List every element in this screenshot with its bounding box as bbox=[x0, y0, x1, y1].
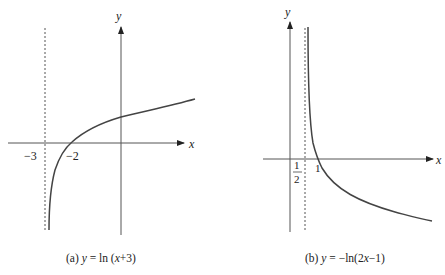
caption-a: (a) y = ln (x+3) bbox=[66, 252, 136, 265]
curve-b bbox=[308, 27, 432, 221]
tick-label-half-num: 1 bbox=[294, 159, 300, 171]
panel-b: 1 2 1 x y (b) y = −ln(2x−1) bbox=[263, 5, 442, 265]
tick-label-neg3: −3 bbox=[24, 149, 37, 163]
y-axis-label-a: y bbox=[115, 9, 122, 23]
x-axis-label-b: x bbox=[435, 153, 442, 167]
tick-label-half-den: 2 bbox=[294, 173, 300, 185]
tick-label-neg2: −2 bbox=[66, 149, 79, 163]
panel-a: −3 −2 x y (a) y = ln (x+3) bbox=[8, 9, 195, 265]
x-axis-label-a: x bbox=[188, 137, 195, 151]
tick-label-1: 1 bbox=[315, 162, 321, 174]
caption-b: (b) y = −ln(2x−1) bbox=[305, 252, 385, 265]
curve-a bbox=[49, 99, 195, 230]
function-graphs: −3 −2 x y (a) y = ln (x+3) 1 2 1 x y (b)… bbox=[0, 0, 445, 275]
y-axis-label-b: y bbox=[284, 5, 291, 19]
